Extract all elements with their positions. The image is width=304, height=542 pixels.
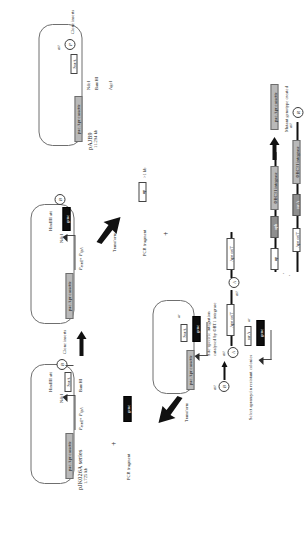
select-apr-orit-label: Apr oriT [228, 246, 233, 262]
pajb9-cassette-box: pac Apr cassette [75, 96, 83, 142]
diagram-root: pJK026A series 1.725 kb pac Apr cassette… [17, 0, 288, 542]
panelb-att-circle: B [55, 194, 66, 205]
arrow-integration [222, 360, 228, 380]
panelb-gene-box: gene [63, 207, 71, 231]
pjk026a-att-stem [66, 365, 74, 366]
att-label-left: att [213, 385, 218, 390]
panelb-site-ndei: NdeI [60, 234, 65, 243]
pjk026a-insert-box: SsrA [65, 372, 72, 392]
pcr-fragment-top-label: PCR fragment [127, 454, 132, 480]
pajb9-att-circle: P [65, 39, 76, 50]
panelc-cassette-label: pac Apr cassette [188, 355, 193, 385]
pajb9-att-label: att [57, 45, 62, 50]
pjk026a-promoter-tipA: PtipA [79, 407, 85, 416]
final-phic31-box: ΦBC31 integrase [271, 166, 279, 210]
pjk026a-insert-label: SsrA [66, 377, 71, 386]
panelc-ssra-label: SsrA [182, 328, 187, 337]
select-promoter-line [271, 330, 272, 360]
pajb9-site-bamhi: BamHI [95, 77, 100, 90]
panelb-site-hindiii-att: HindIII att [49, 211, 54, 231]
final-up-label: up [272, 257, 277, 262]
select-or-label: or [247, 318, 252, 322]
panelb-promoter-ermE: PermE* [79, 258, 85, 270]
panelb-cassette-label: pac Apr cassette [67, 281, 72, 311]
panelb-cassette-box: pac Apr cassette [66, 273, 74, 319]
pjk026a-cassette-label: pac Apr cassette [67, 441, 72, 471]
panelc-gene-box: gene [193, 316, 201, 342]
pjk026a-promoter-ermE: PermE* [79, 418, 85, 430]
final-up-box: up [271, 248, 279, 270]
pcr-fragment-top-box: gene [124, 396, 132, 422]
pjk026a-cassette-box: pac Apr cassette [66, 433, 74, 479]
panel-b-step-transform: Transform [113, 233, 118, 252]
pajb9-step-clone-inserts: Clone inserts [71, 10, 76, 34]
integration-step-line2: catalysed by ΦBT1 integrase [213, 302, 218, 356]
arrow-a-to-b [77, 330, 87, 356]
figure-canvas: pJK026A series 1.725 kb pac Apr cassette… [17, 0, 288, 542]
panelc-or-label: or [177, 314, 182, 318]
pcr-fragment-top-gene: gene [125, 405, 130, 414]
select-ssra-label: ssrA [246, 332, 251, 340]
att-circle-b: B [219, 381, 230, 392]
plasmid-pjk026a-size: 1.725 kb [84, 468, 89, 484]
select-att-label: att [235, 291, 240, 296]
panelb-promoter-line [75, 236, 76, 270]
pjk026a-site-ndei: NdeI [60, 394, 65, 403]
final-aph-box: aph [271, 216, 279, 238]
final-phic31-label: ΦBC31 integrase [272, 172, 277, 204]
plus-sign-top: + [109, 441, 118, 446]
pjk026a-site-bamhi: BamHI [79, 379, 84, 392]
plus-sign-bottom: + [161, 231, 170, 236]
select-promoter-arrowhead [259, 356, 265, 365]
final-aph-label: aph [272, 224, 277, 231]
panelc-ssra-box: SsrA [181, 324, 188, 342]
panelb-promoter-tipA: PtipA [79, 247, 85, 256]
pcr-fragment-bottom-label: PCR fragment [143, 230, 148, 256]
att-label-right: att [222, 351, 227, 356]
pajb9-ssra-label: SsrA [72, 59, 77, 68]
plasmid-pajb9-size: 11.294 kb [94, 130, 99, 148]
panelb-gene-label: gene [64, 215, 69, 224]
integration-step-line1: Site-specific integration [207, 311, 212, 356]
pcr-fragment-bottom-up: up [140, 190, 145, 195]
select-gene-label: gene [258, 329, 263, 338]
pajb9-ssra-box: SsrA [71, 54, 78, 74]
arrow-transform-top [95, 212, 125, 242]
chromosome-apr-orit-box: Apr oriT [227, 304, 235, 336]
pjk026a-site-hindiii-att: HindIII att [49, 372, 54, 392]
select-att-circle-a: A [229, 277, 240, 288]
final-cassette-box: pac Apr cassette [271, 84, 279, 130]
pajb9-site-agei: AgeI [109, 81, 114, 90]
panel-a-step-clone-inserts: Clone inserts [63, 330, 68, 354]
select-ssra-box: ssrA [245, 326, 252, 346]
final-cassette-label: pac Apr cassette [272, 92, 277, 122]
arrow-to-final [269, 136, 281, 160]
pcr-fragment-bottom-size: >1 kb [143, 167, 148, 178]
chromosome-apr-orit-label: Apr oriT [228, 312, 233, 328]
select-apr-orit-box: Apr oriT [227, 238, 235, 270]
pajb9-cassette-label: pac Apr cassette [76, 104, 81, 134]
select-step-text: Select apramycin resistant colonies [249, 355, 254, 420]
final-up-marker: ' [283, 273, 288, 274]
att-circle-a: A [228, 347, 239, 358]
panelc-promoter-arrowhead [195, 352, 201, 361]
pcr-fragment-bottom-box: up [139, 182, 147, 202]
pjk026a-promoter-line [75, 396, 76, 430]
panelc-gene-label: gene [194, 325, 199, 334]
arrow-transform-bottom [157, 396, 187, 426]
pajb9-site-ndei: NdeI [87, 81, 92, 90]
select-gene-box: gene [257, 320, 265, 346]
panelc-cassette-box: pac Apr cassette [187, 350, 195, 390]
